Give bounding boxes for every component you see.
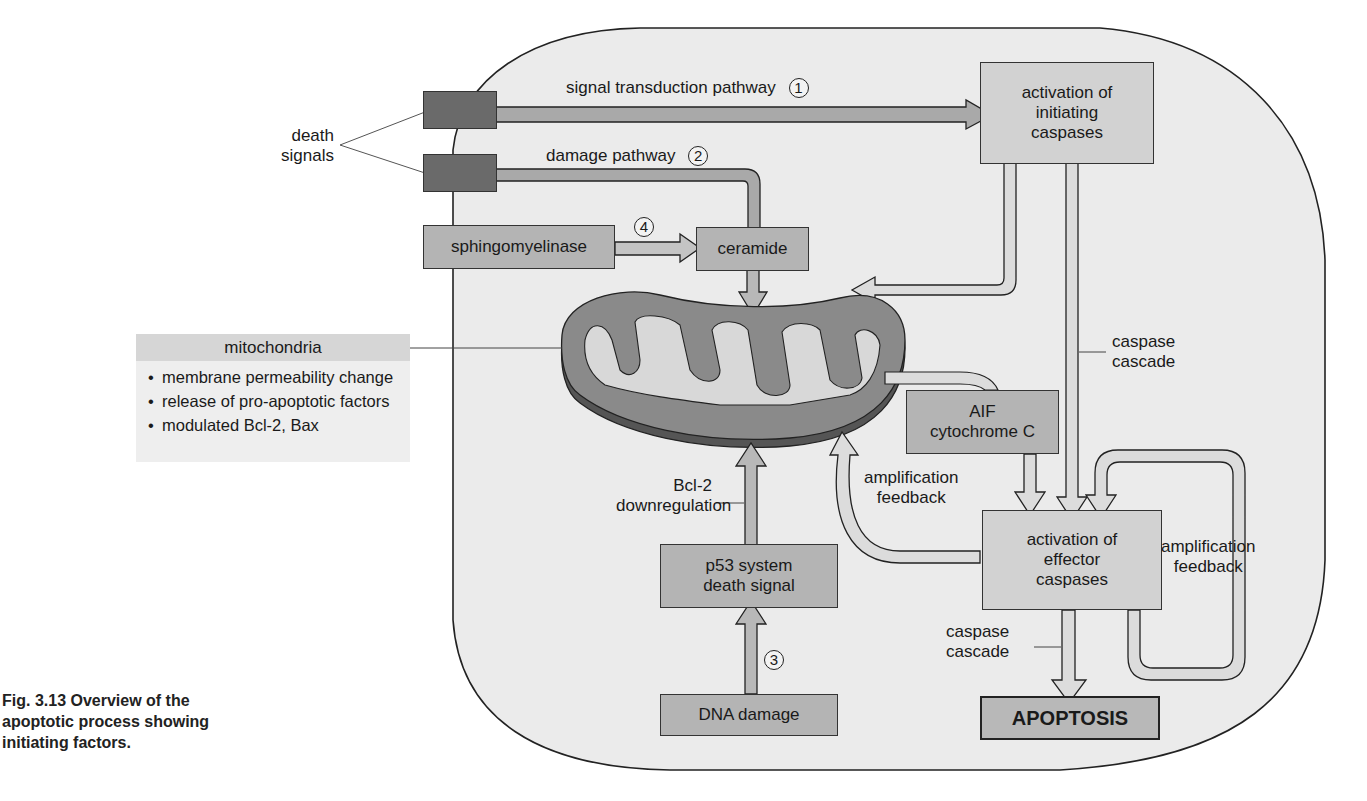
mitochondria-info-title: mitochondria	[136, 334, 410, 361]
initiating-line-2: initiating	[1036, 103, 1098, 123]
death-signals-line-2: signals	[274, 146, 334, 166]
dna-damage-box: DNA damage	[660, 694, 838, 736]
caspase-cascade-label-2: caspase cascade	[946, 622, 1009, 662]
aif-line-2: cytochrome C	[930, 422, 1035, 442]
pathway-number-4: 4	[634, 217, 654, 237]
damage-pathway-label: damage pathway 2	[546, 146, 708, 166]
amplification-feedback-right-label: amplification feedback	[1161, 537, 1256, 577]
effector-line-3: caspases	[1036, 570, 1108, 590]
bcl2-downregulation-label: Bcl-2 downregulation	[616, 476, 712, 516]
mitochondria-info-item: modulated Bcl-2, Bax	[148, 415, 410, 435]
caspase-cascade-1-line-1: caspase	[1112, 332, 1175, 352]
apoptosis-box: APOPTOSIS	[980, 696, 1160, 740]
ceramide-box: ceramide	[696, 227, 809, 271]
damage-pathway-text: damage pathway	[546, 146, 675, 165]
pathway-number-3-label: 3	[764, 650, 784, 670]
death-signal-receptor-2	[423, 154, 497, 192]
caption-line-3: initiating factors.	[2, 732, 209, 753]
pathway-number-4-label: 4	[634, 217, 654, 237]
signal-transduction-text: signal transduction pathway	[566, 78, 776, 97]
death-signals-line-1: death	[274, 126, 334, 146]
p53-line-1: p53 system	[706, 556, 793, 576]
death-signal-receptor-1	[423, 91, 497, 129]
effector-caspases-box: activation of effector caspases	[982, 510, 1162, 610]
p53-death-signal-box: p53 system death signal	[660, 544, 838, 608]
caption-line-1: Fig. 3.13 Overview of the	[2, 690, 209, 711]
bcl2-line-2: downregulation	[616, 496, 712, 516]
p53-line-2: death signal	[703, 576, 795, 596]
amplification-feedback-left-label: amplification feedback	[864, 468, 959, 508]
amp-right-line-2: feedback	[1161, 557, 1256, 577]
amp-left-line-2: feedback	[864, 488, 959, 508]
caspase-cascade-2-line-2: cascade	[946, 642, 1009, 662]
initiating-line-1: activation of	[1022, 83, 1113, 103]
pathway-number-1: 1	[789, 78, 809, 98]
mitochondria-info-item: release of pro-apoptotic factors	[148, 391, 410, 411]
initiating-line-3: caspases	[1031, 123, 1103, 143]
caspase-cascade-1-line-2: cascade	[1112, 352, 1175, 372]
caspase-cascade-2-line-1: caspase	[946, 622, 1009, 642]
signal-transduction-label: signal transduction pathway 1	[566, 78, 809, 98]
amp-right-line-1: amplification	[1161, 537, 1256, 557]
caspase-cascade-label-1: caspase cascade	[1112, 332, 1175, 372]
bcl2-line-1: Bcl-2	[616, 476, 712, 496]
aif-cytochrome-box: AIF cytochrome C	[906, 390, 1059, 454]
aif-line-1: AIF	[969, 402, 995, 422]
death-signals-label: death signals	[274, 126, 334, 166]
mitochondria-info-list: membrane permeability change release of …	[136, 367, 410, 435]
sphingomyelinase-box: sphingomyelinase	[423, 225, 615, 269]
initiating-caspases-box: activation of initiating caspases	[980, 62, 1154, 164]
pathway-number-2: 2	[688, 146, 708, 166]
effector-line-1: activation of	[1027, 530, 1118, 550]
pathway-number-3: 3	[764, 650, 784, 670]
caption-line-2: apoptotic process showing	[2, 711, 209, 732]
amp-left-line-1: amplification	[864, 468, 959, 488]
effector-line-2: effector	[1044, 550, 1100, 570]
mitochondria-info-box: mitochondria membrane permeability chang…	[136, 334, 410, 462]
figure-caption: Fig. 3.13 Overview of the apoptotic proc…	[2, 690, 209, 753]
mitochondria-info-item: membrane permeability change	[148, 367, 410, 387]
